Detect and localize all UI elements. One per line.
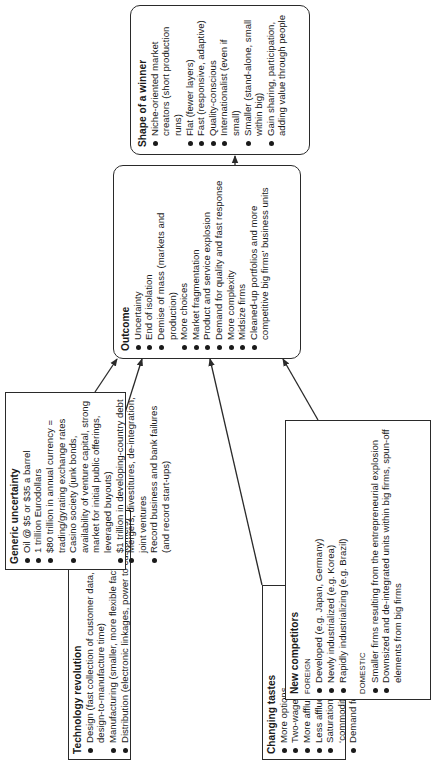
list-item: Demand for quality and fast response	[213, 172, 225, 351]
foreign-competitors-list: Developed (e.g. Japan, Germany) Newly in…	[313, 425, 348, 694]
new-competitors-box: New competitors FOREIGN Developed (e.g. …	[285, 420, 431, 700]
list-item: Record business and bank failures (and r…	[148, 397, 171, 564]
list-item: Newly industrialized (e.g. Korea)	[325, 425, 337, 694]
outcome-box: Outcome Uncertainty End of isolation Dem…	[113, 165, 301, 359]
arrow-competitors-to-outcome	[283, 359, 318, 420]
changing-tastes-title: Changing tastes	[266, 590, 278, 754]
list-item: Casino society (junk bonds, availability…	[67, 397, 113, 564]
shape-of-a-winner-box: Shape of a winner Niche-oriented market …	[130, 5, 310, 155]
shape-of-a-winner-title: Shape of a winner	[137, 12, 149, 147]
domestic-competitors-list: Smaller firms resulting from the entrepr…	[369, 425, 404, 694]
list-item: Oil @ $5 or $35 a barrel	[21, 397, 33, 564]
list-item: Niche-oriented market creators (short pr…	[149, 12, 184, 147]
list-item: $80 trillion in annual currency = tradin…	[44, 397, 67, 564]
list-item: Uncertainty	[132, 172, 144, 351]
list-item: Product and service explosion	[201, 172, 213, 351]
list-item: Rapidly industrializing (e.g. Brazil)	[337, 425, 349, 694]
generic-uncertainty-title: Generic uncertainty	[9, 397, 21, 564]
list-item: Smaller (stand-alone, small within big)	[242, 12, 265, 147]
list-item: Smaller firms resulting from the entrepr…	[369, 425, 381, 694]
shape-of-a-winner-list: Niche-oriented market creators (short pr…	[149, 12, 288, 147]
list-item: More choices	[178, 172, 190, 351]
list-item: $1 trillion in developing-country debt	[114, 397, 126, 564]
list-item: 1 trillion Eurodollars	[32, 397, 44, 564]
new-competitors-title: New competitors	[289, 425, 301, 694]
generic-uncertainty-list: Oil @ $5 or $35 a barrel 1 trillion Euro…	[21, 397, 172, 564]
list-item: Demise of mass (markets and production)	[155, 172, 178, 351]
arrow-tastes-to-outcome	[210, 359, 262, 585]
list-item: Internationalist (even if small)	[218, 12, 241, 147]
list-item: Developed (e.g. Japan, Germany)	[313, 425, 325, 694]
list-item: Mergers, divestitures, de-integration, j…	[125, 397, 148, 564]
list-item: More complexity	[225, 172, 237, 351]
list-item: Flat (fewer layers)	[184, 12, 196, 147]
list-item: Market fragmentation	[190, 172, 202, 351]
domestic-label: DOMESTIC	[357, 425, 369, 694]
diagram-canvas: Technology revolution Design (fast colle…	[0, 0, 435, 765]
list-item: Cleaned-up portfolios and more competiti…	[248, 172, 271, 351]
outcome-title: Outcome	[120, 172, 132, 351]
arrow-uncertainty-to-outcome	[95, 359, 117, 392]
list-item: Midsize firms	[236, 172, 248, 351]
generic-uncertainty-box: Generic uncertainty Oil @ $5 or $35 a ba…	[5, 392, 126, 570]
list-item: End of isolation	[143, 172, 155, 351]
list-item: Downsized and de-integrated units within…	[380, 425, 403, 694]
foreign-label: FOREIGN	[302, 425, 314, 694]
outcome-list: Uncertainty End of isolation Demise of m…	[132, 172, 271, 351]
list-item: Quality-conscious	[207, 12, 219, 147]
list-item: Gain sharing, participation, adding valu…	[265, 12, 288, 147]
list-item: Fast (responsive, adaptive)	[195, 12, 207, 147]
